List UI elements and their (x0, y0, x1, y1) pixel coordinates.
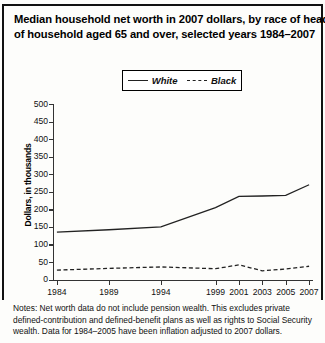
x-tickmark-2001 (239, 280, 240, 285)
y-tick-400: 400 (22, 134, 48, 144)
y-tick-250: 250 (22, 186, 48, 196)
x-tickmark-1989 (109, 280, 110, 285)
y-axis-line (53, 104, 54, 281)
y-tickmark-300 (49, 174, 54, 175)
x-tick-2005: 2005 (276, 287, 295, 297)
y-tickmark-250 (49, 192, 54, 193)
chart-page: Median household net worth in 2007 dolla… (0, 0, 325, 343)
y-tickmark-100 (49, 244, 54, 245)
y-tickmark-500 (49, 104, 54, 105)
x-tick-2007: 2007 (300, 287, 319, 297)
legend-solid-line-icon (128, 80, 148, 81)
x-tickmark-2007 (309, 280, 310, 285)
x-tickmark-1994 (161, 280, 162, 285)
chart-title-line-2: of household aged 65 and over, selected … (14, 27, 314, 42)
y-tick-0: 0 (22, 274, 48, 284)
x-tickmark-1984 (57, 280, 58, 285)
y-tick-200: 200 (22, 204, 48, 214)
chart-title: Median household net worth in 2007 dolla… (14, 12, 314, 41)
x-axis-line (53, 280, 313, 281)
legend-label-black: Black (211, 75, 236, 86)
x-tick-1989: 1989 (99, 287, 118, 297)
y-tick-300: 300 (22, 169, 48, 179)
x-tick-2003: 2003 (253, 287, 272, 297)
chart-title-line-1: Median household net worth in 2007 dolla… (14, 12, 314, 27)
y-tick-150: 150 (22, 221, 48, 231)
series-lines (53, 104, 313, 281)
y-tickmark-400 (49, 139, 54, 140)
x-tickmark-2003 (262, 280, 263, 285)
x-tick-1994: 1994 (151, 287, 170, 297)
x-tickmark-2005 (286, 280, 287, 285)
legend-item-white: White (128, 75, 178, 86)
y-tickmark-200 (49, 209, 54, 210)
legend-item-black: Black (187, 75, 236, 86)
page-border-right (321, 4, 323, 300)
x-tickmark-1999 (216, 280, 217, 285)
page-border-top (2, 4, 323, 6)
y-tick-50: 50 (22, 257, 48, 267)
x-tick-1999: 1999 (206, 287, 225, 297)
legend-label-white: White (152, 75, 178, 86)
y-tick-500: 500 (22, 99, 48, 109)
x-tick-2001: 2001 (229, 287, 248, 297)
y-tick-450: 450 (22, 116, 48, 126)
x-tick-1984: 1984 (47, 287, 66, 297)
y-tickmark-350 (49, 157, 54, 158)
y-tick-100: 100 (22, 239, 48, 249)
series-line-white (57, 185, 309, 232)
y-axis-tick-labels: 050100150200250300350400450500 (18, 0, 48, 343)
y-tickmark-150 (49, 227, 54, 228)
y-tickmark-0 (49, 280, 54, 281)
page-border-left (2, 4, 4, 300)
series-line-black (57, 265, 309, 271)
chart-notes: Notes: Net worth data do not include pen… (13, 303, 318, 338)
y-tick-350: 350 (22, 151, 48, 161)
y-tickmark-450 (49, 122, 54, 123)
chart-legend: White Black (122, 70, 242, 91)
plot-area (53, 104, 313, 281)
y-tickmark-50 (49, 262, 54, 263)
legend-dashed-line-icon (187, 80, 207, 81)
